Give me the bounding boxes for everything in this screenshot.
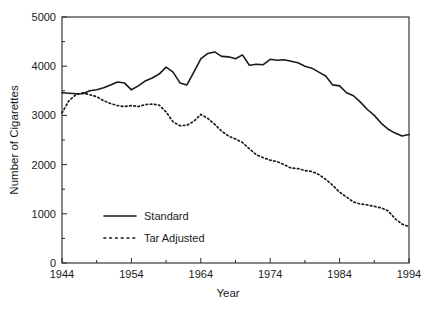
- y-tick-label-2000: 2000: [32, 159, 56, 171]
- series-line-tar-adjusted: [62, 93, 409, 227]
- x-tick-label-1994: 1994: [397, 268, 421, 280]
- y-tick-label-1000: 1000: [32, 208, 56, 220]
- line-chart-canvas: 010002000300040005000 194419541964197419…: [0, 0, 429, 311]
- cigarette-consumption-figure: 010002000300040005000 194419541964197419…: [0, 0, 429, 311]
- x-axis-tick-labels: 194419541964197419841994: [50, 268, 421, 280]
- x-tick-label-1984: 1984: [327, 268, 351, 280]
- data-series-group: [62, 52, 409, 227]
- x-tick-label-1974: 1974: [258, 268, 282, 280]
- chart-legend: StandardTar Adjusted: [104, 210, 205, 244]
- x-tick-label-1954: 1954: [119, 268, 143, 280]
- series-line-standard: [62, 52, 409, 136]
- y-axis-tick-labels: 010002000300040005000: [32, 11, 56, 269]
- x-axis-title: Year: [216, 287, 239, 299]
- legend-label-tar-adjusted: Tar Adjusted: [144, 232, 205, 244]
- y-tick-label-5000: 5000: [32, 11, 56, 23]
- y-tick-label-3000: 3000: [32, 109, 56, 121]
- x-tick-label-1944: 1944: [50, 268, 74, 280]
- legend-label-standard: Standard: [144, 210, 189, 222]
- plot-frame: [62, 17, 409, 263]
- y-tick-label-4000: 4000: [32, 60, 56, 72]
- y-axis-title: Number of Cigarettes: [8, 85, 20, 195]
- x-tick-label-1964: 1964: [189, 268, 213, 280]
